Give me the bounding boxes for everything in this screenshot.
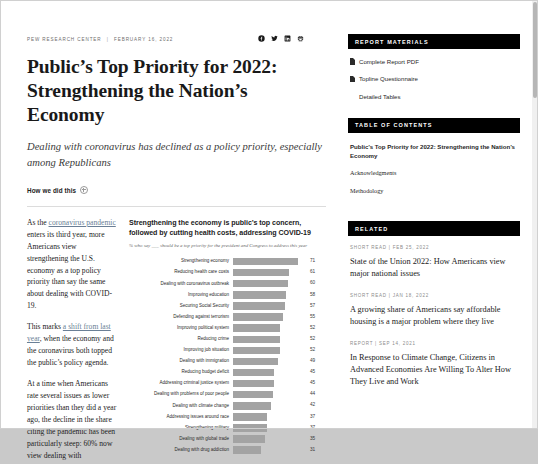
- chart-bar-row: Dealing with climate change42: [129, 400, 326, 411]
- scrollbar-thumb[interactable]: [533, 2, 538, 98]
- chart-bar-row: Securing Social Security57: [129, 300, 326, 311]
- how-we-did-this-toggle[interactable]: How we did this: [27, 186, 88, 194]
- facebook-icon[interactable]: [258, 35, 265, 42]
- pdf-document-icon: [350, 58, 355, 65]
- table-of-contents-item[interactable]: Methodology: [350, 187, 518, 196]
- table-of-contents-item[interactable]: Acknowledgments: [350, 169, 518, 178]
- report-materials-panel: REPORT MATERIALS Complete Report PDFTopl…: [348, 34, 520, 106]
- p1-post: enters its third year, more Americans vi…: [27, 230, 112, 311]
- chart-bar-fill: [233, 302, 285, 309]
- paragraph-3: At a time when Americans rate several is…: [27, 378, 119, 462]
- related-item[interactable]: SHORT READ | JAN 18, 2022A growing share…: [350, 293, 518, 328]
- chart-bar-track: [233, 323, 306, 334]
- chart-bar-label: Strengthening military: [129, 426, 233, 431]
- chart-bar-label: Strengthening economy: [129, 259, 233, 264]
- plus-circle-icon: [80, 186, 88, 194]
- chart-bar-track: [233, 267, 306, 278]
- chart-bar-row: Improving job situation52: [129, 345, 326, 356]
- priorities-bar-chart: Strengthening the economy is public’s to…: [129, 217, 326, 464]
- related-item-title[interactable]: State of the Union 2022: How Americans v…: [350, 256, 518, 280]
- chart-bar-label: Dealing with problems of poor people: [129, 392, 233, 397]
- article-meta-row: PEW RESEARCH CENTER | FEBRUARY 16, 2022: [27, 34, 326, 48]
- document-icon: [350, 76, 355, 83]
- chart-bar-fill: [233, 446, 261, 453]
- chart-bar-value: 71: [306, 259, 326, 264]
- article-body: As the coronavirus pandemic enters its t…: [27, 217, 119, 464]
- report-material-item[interactable]: Topline Questionnaire: [350, 75, 518, 82]
- chart-bar-value: 52: [306, 337, 326, 342]
- chart-bar-track: [233, 400, 306, 411]
- table-of-contents-panel: TABLE OF CONTENTS Public’s Top Priority …: [348, 118, 520, 209]
- chart-bar-fill: [233, 424, 267, 431]
- publish-date: FEBRUARY 16, 2022: [114, 37, 173, 42]
- print-icon[interactable]: [297, 35, 304, 42]
- p2-post: , when the economy and the coronavirus b…: [27, 334, 114, 367]
- how-we-did-this-label: How we did this: [27, 187, 76, 194]
- chart-bar-fill: [233, 280, 288, 287]
- chart-bar-track: [233, 434, 306, 445]
- chart-bar-fill: [233, 435, 265, 442]
- meta-separator: |: [107, 37, 109, 42]
- chart-bar-label: Improving political system: [129, 326, 233, 331]
- related-item-title[interactable]: A growing share of Americans say afforda…: [350, 304, 518, 328]
- chart-bar-track: [233, 422, 306, 433]
- chart-bar-track: [233, 334, 306, 345]
- article-column: PEW RESEARCH CENTER | FEBRUARY 16, 2022: [0, 0, 340, 429]
- related-item-meta: SHORT READ | JAN 18, 2022: [350, 293, 518, 298]
- chart-bar-row: Strengthening economy71: [129, 256, 326, 267]
- paragraph-1: As the coronavirus pandemic enters its t…: [27, 217, 119, 313]
- p1-pre: As the: [27, 218, 49, 227]
- chart-bar-value: 52: [306, 348, 326, 353]
- report-material-label: Complete Report PDF: [359, 58, 419, 65]
- twitter-icon[interactable]: [271, 35, 278, 42]
- chart-bar-label: Dealing with drug addiction: [129, 448, 233, 453]
- chart-bar-row: Addressing issues around race37: [129, 411, 326, 422]
- chart-bar-label: Defending against terrorism: [129, 315, 233, 320]
- p2-pre: This marks: [27, 322, 63, 331]
- article-kicker: PEW RESEARCH CENTER | FEBRUARY 16, 2022: [27, 34, 173, 42]
- chart-bar-fill: [233, 402, 271, 409]
- chart-bar-track: [233, 445, 306, 456]
- chart-bar-value: 37: [306, 426, 326, 431]
- report-material-item[interactable]: Detailed Tables: [350, 93, 518, 100]
- report-material-item[interactable]: Complete Report PDF: [350, 58, 518, 65]
- chart-bar-value: 35: [306, 437, 326, 442]
- chart-bar-row: Dealing with global trade35: [129, 434, 326, 445]
- related-item[interactable]: REPORT | SEP 14, 2021In Response to Clim…: [350, 341, 518, 388]
- chart-bar-label: Improving job situation: [129, 348, 233, 353]
- chart-title: Strengthening the economy is public’s to…: [129, 218, 326, 238]
- chart-bar-row: Defending against terrorism55: [129, 312, 326, 323]
- chart-bar-value: 58: [306, 293, 326, 298]
- chart-bar-label: Addressing issues around race: [129, 415, 233, 420]
- chart-bar-row: Dealing with coronavirus outbreak60: [129, 278, 326, 289]
- p3-post: At a time when Americans rate several is…: [27, 379, 116, 460]
- chart-bar-track: [233, 300, 306, 311]
- chart-bar-label: Dealing with coronavirus outbreak: [129, 282, 233, 287]
- divider: [27, 206, 326, 207]
- chart-bar-label: Reducing budget deficit: [129, 370, 233, 375]
- chart-subtitle: % who say ___ should be a top priority f…: [129, 242, 326, 249]
- chart-bar-label: Improving education: [129, 293, 233, 298]
- chart-bar-value: 61: [306, 270, 326, 275]
- linkedin-icon[interactable]: [284, 35, 291, 42]
- chart-bar-row: Improving education58: [129, 289, 326, 300]
- article-subhead: Dealing with coronavirus has declined as…: [27, 139, 326, 170]
- chart-bar-row: Improving political system52: [129, 323, 326, 334]
- chart-bar-row: Reducing budget deficit45: [129, 367, 326, 378]
- chart-bar-row: Addressing criminal justice system45: [129, 378, 326, 389]
- related-item[interactable]: SHORT READ | FEB 25, 2022State of the Un…: [350, 245, 518, 280]
- related-item-title[interactable]: In Response to Climate Change, Citizens …: [350, 352, 518, 388]
- chart-bar-fill: [233, 391, 273, 398]
- chart-bar-fill: [233, 358, 278, 365]
- table-of-contents-item[interactable]: Public’s Top Priority for 2022: Strength…: [350, 142, 518, 160]
- chart-bar-label: Reducing crime: [129, 337, 233, 342]
- chart-bars: Strengthening economy71Reducing health c…: [129, 256, 326, 456]
- related-item-meta: SHORT READ | FEB 25, 2022: [350, 245, 518, 250]
- share-bar: [258, 34, 326, 42]
- chart-bar-row: Dealing with immigration49: [129, 356, 326, 367]
- page-scrollbar[interactable]: [532, 0, 538, 429]
- chart-bar-value: 49: [306, 359, 326, 364]
- paragraph-2: This marks a shift from last year, when …: [27, 321, 119, 369]
- coronavirus-pandemic-link[interactable]: coronavirus pandemic: [49, 218, 116, 227]
